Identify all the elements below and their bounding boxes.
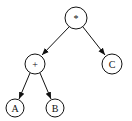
- edge-plus-to-b: [40, 73, 51, 99]
- node-root-multiply: *: [65, 7, 87, 29]
- node-c: C: [102, 54, 122, 74]
- node-label: +: [32, 59, 38, 70]
- node-label: B: [52, 103, 59, 114]
- edge-root-to-c: [83, 27, 105, 55]
- node-b: B: [46, 99, 64, 117]
- node-a: A: [6, 99, 24, 117]
- expression-tree-diagram: * + C A B: [0, 0, 132, 121]
- node-label: *: [74, 13, 79, 24]
- node-label: C: [109, 59, 116, 70]
- edge-root-to-plus: [42, 27, 69, 55]
- node-label: A: [11, 103, 19, 114]
- edge-plus-to-a: [19, 73, 30, 99]
- node-plus: +: [25, 54, 45, 74]
